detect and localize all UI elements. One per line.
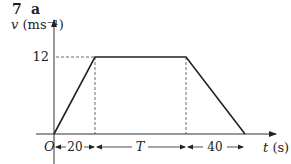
y-tick-12: 12: [32, 49, 49, 64]
x-axis-label: t (s): [263, 140, 289, 155]
origin-label: O: [44, 139, 55, 154]
interval-T: T: [136, 139, 146, 154]
velocity-line: [54, 57, 245, 134]
interval-40: 40: [207, 140, 222, 154]
velocity-time-graph: 12 O 20 T 40 t (s): [0, 0, 291, 164]
interval-20: 20: [67, 140, 82, 154]
